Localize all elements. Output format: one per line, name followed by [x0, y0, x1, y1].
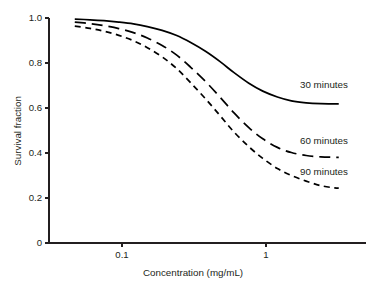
series-curve-30-minutes — [75, 19, 339, 104]
y-tick-label: 0.6 — [29, 102, 42, 113]
series-label-90-minutes: 90 minutes — [300, 166, 348, 177]
y-tick-label: 0 — [37, 237, 42, 248]
x-axis-title: Concentration (mg/mL) — [143, 267, 243, 278]
x-tick-label: 0.1 — [115, 249, 128, 260]
data-series-group — [75, 19, 339, 188]
y-tick-label: 0.2 — [29, 192, 42, 203]
series-label-60-minutes: 60 minutes — [300, 135, 348, 146]
y-tick-label: 0.8 — [29, 57, 42, 68]
y-tick-label: 0.4 — [29, 147, 43, 158]
y-tick-group: 00.20.40.60.81.0 — [29, 12, 49, 248]
y-tick-label: 1.0 — [29, 12, 42, 23]
x-tick-group: 0.11 — [115, 243, 268, 260]
chart-figure: 00.20.40.60.81.0 0.11 30 minutes60 minut… — [0, 0, 384, 293]
series-label-30-minutes: 30 minutes — [300, 79, 348, 90]
x-tick-label: 1 — [263, 249, 268, 260]
series-curve-90-minutes — [75, 26, 339, 188]
x-axis: 0.11 — [49, 243, 366, 260]
series-label-group: 30 minutes60 minutes90 minutes — [300, 79, 348, 177]
y-axis-title: Survival fraction — [12, 96, 23, 166]
survival-fraction-chart: 00.20.40.60.81.0 0.11 30 minutes60 minut… — [0, 0, 384, 293]
y-axis: 00.20.40.60.81.0 — [29, 12, 49, 248]
